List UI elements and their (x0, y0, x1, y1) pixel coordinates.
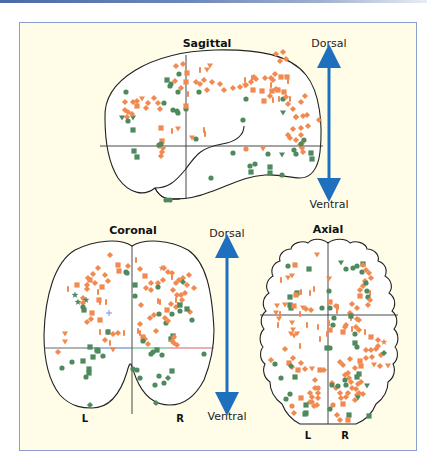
circle-marker-icon (230, 150, 235, 155)
square-marker-icon (183, 103, 188, 108)
bar-marker-icon (317, 324, 319, 330)
circle-marker-icon (159, 352, 164, 357)
square-marker-icon (99, 284, 104, 289)
circle-marker-icon (69, 359, 74, 364)
bar-marker-icon (187, 91, 189, 97)
square-marker-icon (115, 262, 120, 267)
bar-marker-icon (328, 320, 330, 326)
square-marker-icon (358, 363, 363, 368)
circle-marker-icon (124, 270, 129, 275)
square-marker-icon (250, 87, 255, 92)
bar-marker-icon (272, 97, 274, 103)
square-marker-icon (278, 74, 283, 79)
square-marker-icon (267, 164, 272, 169)
circle-marker-icon (155, 284, 160, 289)
circle-marker-icon (161, 100, 166, 105)
square-marker-icon (169, 368, 174, 373)
sagittal-panel: Sagittal Dorsal Ventral (100, 37, 349, 211)
square-marker-icon (80, 358, 85, 363)
bar-marker-icon (175, 297, 177, 303)
circle-marker-icon (364, 288, 369, 293)
circle-marker-icon (148, 351, 153, 356)
sagittal-dorsal-label: Dorsal (311, 37, 346, 50)
circle-marker-icon (123, 89, 128, 94)
circle-marker-icon (329, 382, 334, 387)
brain-activation-figure: Sagittal Dorsal Ventral Coronal L R Dors… (0, 0, 427, 474)
square-marker-icon (345, 417, 350, 422)
bar-marker-icon (351, 326, 353, 332)
bar-marker-icon (97, 289, 99, 295)
bar-marker-icon (171, 274, 173, 280)
bar-marker-icon (309, 290, 311, 296)
circle-marker-icon (161, 380, 166, 385)
bar-marker-icon (279, 311, 281, 317)
circle-marker-icon (272, 361, 277, 366)
circle-marker-icon (193, 136, 198, 141)
square-marker-icon (366, 413, 371, 418)
square-marker-icon (340, 329, 345, 334)
circle-marker-icon (283, 396, 288, 401)
circle-marker-icon (265, 151, 270, 156)
bar-marker-icon (109, 340, 111, 346)
bar-marker-icon (336, 308, 338, 314)
circle-marker-icon (208, 175, 213, 180)
square-marker-icon (340, 401, 345, 406)
circle-marker-icon (134, 367, 139, 372)
circle-marker-icon (293, 151, 298, 156)
circle-marker-icon (330, 322, 335, 327)
square-marker-icon (248, 169, 253, 174)
square-marker-icon (327, 299, 332, 304)
circle-marker-icon (59, 365, 64, 370)
bar-marker-icon (280, 277, 282, 283)
bar-marker-icon (199, 67, 201, 73)
square-marker-icon (90, 354, 95, 359)
bar-marker-icon (319, 336, 321, 342)
bar-marker-icon (204, 131, 206, 137)
circle-marker-icon (327, 345, 332, 350)
bar-marker-icon (67, 286, 69, 292)
coronal-dorsal-label: Dorsal (209, 227, 244, 240)
axial-right-label: R (341, 430, 349, 441)
circle-marker-icon (352, 331, 357, 336)
circle-marker-icon (189, 317, 194, 322)
square-marker-icon (309, 156, 314, 161)
circle-marker-icon (319, 305, 324, 310)
circle-marker-icon (343, 382, 348, 387)
bar-marker-icon (251, 75, 253, 81)
square-marker-icon (97, 317, 102, 322)
square-marker-icon (94, 347, 99, 352)
bar-marker-icon (289, 96, 291, 102)
bar-marker-icon (171, 128, 173, 134)
square-marker-icon (267, 170, 272, 175)
circle-marker-icon (278, 375, 283, 380)
circle-marker-icon (326, 288, 331, 293)
circle-marker-icon (175, 89, 180, 94)
coronal-left-label: L (82, 413, 89, 424)
circle-marker-icon (169, 311, 174, 316)
square-marker-icon (317, 367, 322, 372)
square-marker-icon (132, 282, 137, 287)
circle-marker-icon (289, 403, 294, 408)
square-marker-icon (292, 374, 297, 379)
square-marker-icon (134, 154, 139, 159)
square-marker-icon (295, 367, 300, 372)
circle-marker-icon (100, 353, 105, 358)
circle-marker-icon (240, 117, 245, 122)
square-marker-icon (292, 262, 297, 267)
square-marker-icon (183, 79, 188, 84)
circle-marker-icon (327, 305, 332, 310)
circle-marker-icon (125, 118, 130, 123)
bar-marker-icon (105, 299, 107, 305)
square-marker-icon (89, 310, 94, 315)
circle-marker-icon (137, 375, 142, 380)
square-marker-icon (74, 282, 79, 287)
bar-marker-icon (270, 82, 272, 88)
circle-marker-icon (167, 83, 172, 88)
square-marker-icon (87, 344, 92, 349)
bar-marker-icon (159, 299, 161, 305)
circle-marker-icon (80, 304, 85, 309)
bar-marker-icon (299, 311, 301, 317)
circle-marker-icon (327, 406, 332, 411)
square-marker-icon (158, 125, 163, 130)
bar-marker-icon (99, 329, 101, 335)
